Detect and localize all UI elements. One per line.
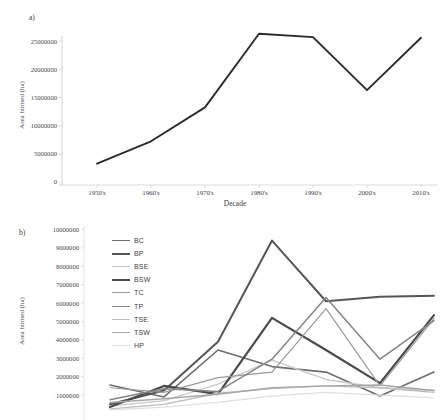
panel-b-plot [0,212,443,420]
legend-item-tc: TC [112,286,192,299]
panel-a-xtick-2010s: 2010's [396,189,443,197]
legend-label-bse: BSE [134,263,149,270]
figure-container: a) Area burned (ha) 25000000 20000000 15… [0,0,443,420]
legend-swatch-tp [112,306,130,307]
panel-a-xtick-1960s: 1960's [126,189,176,197]
panel-a-series-total [97,34,421,164]
panel-a-xtick-1950s: 1950's [72,189,122,197]
panel-a-plot [0,0,443,200]
legend-label-bsw: BSW [134,276,151,283]
legend-swatch-tc [112,292,130,293]
legend-swatch-bc [112,240,130,241]
legend-label-tc: TC [134,289,144,296]
legend-swatch-tse [112,319,130,320]
panel-a-xtick-2000s: 2000's [342,189,392,197]
legend-item-bp: BP [112,247,192,260]
legend-swatch-hp [112,345,130,346]
panel-b-legend: BC BP BSE BSW TC TP [112,234,192,352]
legend-label-tp: TP [134,303,143,310]
panel-b: b) Area burned (ha) 10000000 9000000 800… [0,212,443,420]
legend-label-bp: BP [134,250,144,257]
legend-item-hp: HP [112,339,192,352]
legend-label-tse: TSE [134,316,148,323]
legend-swatch-bp [112,253,130,255]
legend-label-bc: BC [134,237,144,244]
panel-a: a) Area burned (ha) 25000000 20000000 15… [0,0,443,212]
legend-item-tsw: TSW [112,326,192,339]
legend-swatch-bsw [112,279,130,281]
legend-label-tsw: TSW [134,329,150,336]
legend-item-bc: BC [112,234,192,247]
panel-a-xtick-1980s: 1980's [234,189,284,197]
panel-a-x-axis-title: Decade [200,199,270,208]
panel-a-xtick-1990s: 1990's [288,189,338,197]
legend-item-bse: BSE [112,260,192,273]
legend-swatch-tsw [112,332,130,333]
panel-a-xtick-1970s: 1970's [180,189,230,197]
legend-item-tse: TSE [112,313,192,326]
legend-label-hp: HP [134,342,144,349]
legend-item-bsw: BSW [112,273,192,286]
legend-item-tp: TP [112,299,192,312]
legend-swatch-bse [112,266,130,267]
